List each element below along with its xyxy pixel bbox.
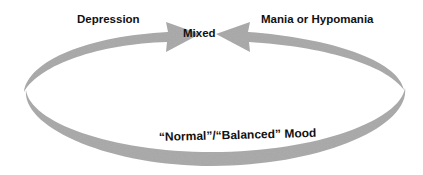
depression-label: Depression <box>77 14 140 26</box>
mania-arrow <box>216 22 404 90</box>
depression-arrow <box>24 22 200 92</box>
normal-mood-band <box>26 88 405 166</box>
mixed-label: Mixed <box>183 28 216 40</box>
mood-cycle-diagram: Depression Mixed Mania or Hypomania “Nor… <box>0 0 423 175</box>
mania-label: Mania or Hypomania <box>261 14 373 26</box>
